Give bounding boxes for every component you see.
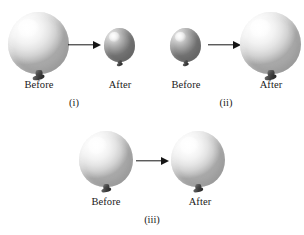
label-ii-after: After bbox=[240, 79, 302, 91]
balloon-comparison-figure: Before After (i) Before After (ii) bbox=[0, 0, 304, 235]
label-i-before: Before bbox=[4, 79, 74, 91]
label-iii-after: After bbox=[170, 196, 230, 208]
arrow-shaft bbox=[136, 160, 162, 161]
balloon-knot-icon bbox=[182, 60, 189, 65]
balloon-body bbox=[79, 131, 133, 187]
label-ii-before: Before bbox=[156, 79, 216, 91]
balloon-body bbox=[104, 28, 135, 62]
balloon-iii-before bbox=[79, 131, 133, 187]
balloon-knot-icon bbox=[116, 60, 123, 65]
balloon-iii-after bbox=[171, 131, 225, 187]
panel-label-ii: (ii) bbox=[196, 97, 256, 109]
balloon-i-after bbox=[104, 28, 135, 62]
panel-label-i: (i) bbox=[44, 97, 104, 109]
balloon-knot-icon bbox=[100, 184, 112, 193]
balloon-ii-after bbox=[240, 12, 301, 74]
balloon-body bbox=[8, 12, 69, 74]
panel-i: Before After (i) bbox=[0, 0, 152, 118]
label-iii-before: Before bbox=[76, 196, 136, 208]
arrow-shaft bbox=[208, 44, 234, 45]
transition-arrow-ii bbox=[208, 40, 241, 49]
transition-arrow-iii bbox=[136, 156, 169, 165]
panel-iii: Before After (iii) bbox=[60, 118, 244, 235]
arrow-head-icon bbox=[93, 41, 101, 49]
transition-arrow-i bbox=[68, 40, 101, 49]
panel-ii: Before After (ii) bbox=[152, 0, 304, 118]
balloon-body bbox=[170, 28, 201, 62]
arrow-head-icon bbox=[161, 157, 169, 165]
balloon-body bbox=[240, 12, 301, 74]
arrow-shaft bbox=[68, 44, 94, 45]
balloon-knot-icon bbox=[192, 184, 204, 193]
balloon-i-before bbox=[8, 12, 69, 74]
panel-label-iii: (iii) bbox=[122, 214, 182, 226]
label-i-after: After bbox=[90, 79, 150, 91]
balloon-body bbox=[171, 131, 225, 187]
balloon-ii-before bbox=[170, 28, 201, 62]
